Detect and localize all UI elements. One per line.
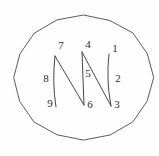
segment-3-1 bbox=[108, 54, 111, 106]
point-label-7: 7 bbox=[58, 39, 64, 51]
point-label-2: 2 bbox=[115, 72, 121, 84]
point-label-8: 8 bbox=[43, 72, 49, 84]
point-label-3: 3 bbox=[114, 98, 120, 110]
figure-svg: 123456789 bbox=[0, 0, 159, 156]
point-label-1: 1 bbox=[112, 42, 118, 54]
circle-outline bbox=[14, 15, 154, 140]
figure-container: 123456789 bbox=[0, 0, 159, 156]
point-label-4: 4 bbox=[85, 38, 91, 50]
segment-7-6 bbox=[55, 56, 84, 105]
circle-outline-group bbox=[14, 15, 154, 140]
zigzag-path-group bbox=[54, 52, 111, 107]
segment-6-4 bbox=[82, 52, 84, 105]
point-label-5: 5 bbox=[85, 67, 91, 79]
point-label-6: 6 bbox=[87, 98, 93, 110]
segment-9-7 bbox=[54, 56, 56, 107]
point-label-9: 9 bbox=[47, 97, 53, 109]
